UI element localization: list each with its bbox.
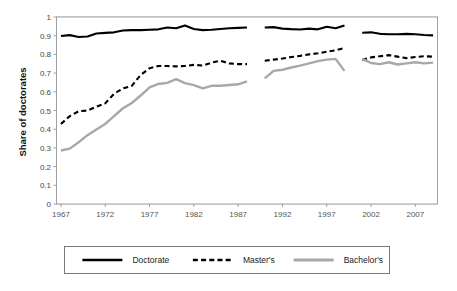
share-of-doctorates-line-chart: 00.10.20.30.40.50.60.70.80.91 1967197219…	[0, 0, 457, 291]
x-tick-label: 1977	[141, 210, 159, 219]
x-tick-label: 2007	[406, 210, 424, 219]
y-axis-tick-labels: 00.10.20.30.40.50.60.70.80.91	[40, 13, 52, 209]
x-tick-label: 1997	[318, 210, 336, 219]
y-tick-label: 0.7	[40, 69, 52, 78]
y-tick-label: 0.3	[40, 144, 52, 153]
plot-frame	[57, 17, 438, 204]
legend-label: Doctorate	[132, 255, 169, 265]
y-tick-label: 0.5	[40, 107, 52, 116]
plot-area-border	[57, 17, 438, 204]
y-tick-label: 0.9	[40, 32, 52, 41]
x-tick-label: 1992	[274, 210, 292, 219]
y-tick-label: 0.2	[40, 163, 52, 172]
chart-container: 00.10.20.30.40.50.60.70.80.91 1967197219…	[0, 0, 457, 291]
legend-label: Bachelor's	[344, 255, 383, 265]
y-axis-title: Share of doctorates	[17, 67, 28, 156]
y-tick-label: 0.1	[40, 181, 52, 190]
legend-label: Master's	[243, 255, 275, 265]
x-tick-label: 1982	[185, 210, 203, 219]
chart-legend: DoctorateMaster'sBachelor's	[65, 247, 390, 274]
x-tick-label: 1967	[52, 210, 70, 219]
x-tick-label: 2002	[362, 210, 380, 219]
y-tick-label: 0.6	[40, 88, 52, 97]
x-axis-tick-labels: 196719721977198219871992199720022007	[52, 210, 425, 219]
y-tick-label: 0	[47, 200, 52, 209]
y-tick-label: 0.4	[40, 125, 52, 134]
x-tick-label: 1987	[229, 210, 247, 219]
y-tick-label: 1	[47, 13, 52, 22]
y-tick-label: 0.8	[40, 50, 52, 59]
x-tick-label: 1972	[96, 210, 114, 219]
